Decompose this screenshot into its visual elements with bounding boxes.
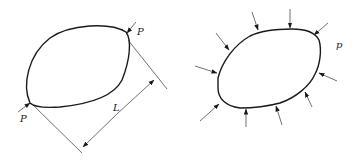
- pressure-arrow-3: [252, 12, 258, 30]
- diagram-canvas: P P L p: [0, 0, 354, 162]
- right-figure-pressure: p: [195, 9, 343, 127]
- ring-outline-right: [218, 29, 320, 108]
- label-dimension-L: L: [112, 102, 120, 113]
- left-figure-point-loads: P P L: [18, 22, 167, 153]
- dimension-line-L-lower: [83, 113, 118, 147]
- pressure-arrow-2: [216, 33, 229, 50]
- pressure-arrow-7: [305, 92, 312, 107]
- force-arrow-top: [127, 22, 136, 33]
- pressure-arrow-6: [319, 73, 337, 81]
- ring-outline-left: [27, 26, 130, 108]
- extension-line-bottom: [32, 104, 82, 153]
- dimension-line-L: [118, 80, 154, 113]
- pressure-arrow-1: [195, 66, 217, 73]
- pressure-arrow-10: [200, 104, 219, 121]
- label-pressure: p: [336, 39, 343, 50]
- extension-line-top: [128, 40, 167, 89]
- force-arrow-bottom: [18, 103, 30, 112]
- label-force-top: P: [136, 26, 144, 37]
- label-force-bottom: P: [19, 113, 27, 124]
- pressure-arrow-5: [314, 23, 328, 35]
- pressure-arrow-8: [276, 106, 282, 125]
